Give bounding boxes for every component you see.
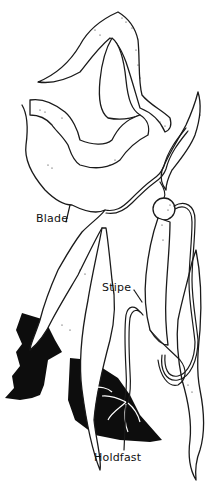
label-blade: Blade [36,212,68,225]
float-bulb [153,198,175,220]
rock-left [5,313,62,400]
float-blade [145,218,170,345]
label-stipe: Stipe [102,281,131,294]
label-holdfast: Holdfast [94,451,141,464]
stipe-to-holdfast [124,307,140,402]
stipe-pointer [134,290,142,302]
kelp-diagram: Blade Stipe Holdfast [0,0,215,491]
kelp-illustration [0,0,215,491]
stipe-to-holdfast-2 [128,310,143,403]
